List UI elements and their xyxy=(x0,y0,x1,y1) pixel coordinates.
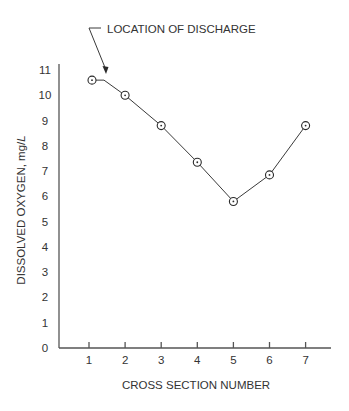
x-ticks: 1234567 xyxy=(86,342,309,366)
y-axis-label-unit: L xyxy=(15,135,27,141)
axes xyxy=(59,64,331,348)
y-tick-label: 0 xyxy=(42,342,48,354)
y-tick-label: 8 xyxy=(42,140,48,152)
discharge-annotation: LOCATION OF DISCHARGE xyxy=(89,23,256,74)
y-tick-label: 4 xyxy=(42,241,49,253)
data-point-center xyxy=(124,94,126,96)
line-chart: 1234567 01234567891011 LOCATION OF DISCH… xyxy=(0,0,349,411)
y-tick-label: 5 xyxy=(42,216,48,228)
data-point-center xyxy=(196,161,198,163)
data-point-center xyxy=(91,79,93,81)
x-tick-label: 3 xyxy=(158,354,164,366)
annotation-leader-diagonal xyxy=(89,28,106,70)
y-tick-label: 10 xyxy=(39,89,52,101)
x-tick-label: 7 xyxy=(302,354,308,366)
x-axis-label: CROSS SECTION NUMBER xyxy=(122,379,270,391)
data-point-center xyxy=(160,125,162,127)
data-point-center xyxy=(269,174,271,176)
x-tick-label: 4 xyxy=(194,354,201,366)
data-point-center xyxy=(233,201,235,203)
y-tick-label: 11 xyxy=(39,64,51,76)
y-tick-label: 9 xyxy=(42,115,48,127)
y-tick-label: 7 xyxy=(42,165,48,177)
y-tick-label: 6 xyxy=(42,190,48,202)
data-series xyxy=(88,76,310,205)
y-axis-label: DISSOLVED OXYGEN, mg/L xyxy=(15,135,27,284)
arrowhead-icon xyxy=(103,66,109,74)
x-tick-label: 2 xyxy=(122,354,128,366)
annotation-text: LOCATION OF DISCHARGE xyxy=(107,23,256,35)
y-axis-label-main: DISSOLVED OXYGEN, mg/ xyxy=(15,141,27,285)
x-tick-label: 6 xyxy=(266,354,272,366)
x-tick-label: 5 xyxy=(230,354,236,366)
y-tick-label: 2 xyxy=(42,291,48,303)
data-point-center xyxy=(305,125,307,127)
x-tick-label: 1 xyxy=(86,354,92,366)
y-tick-label: 1 xyxy=(42,317,48,329)
y-ticks: 01234567891011 xyxy=(39,64,52,354)
y-tick-label: 3 xyxy=(42,266,48,278)
